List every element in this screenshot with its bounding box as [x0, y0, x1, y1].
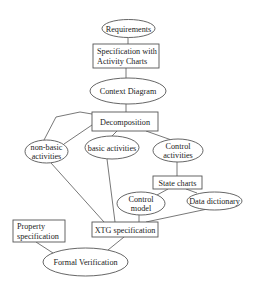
node-formal-verification: Formal Verification [43, 248, 128, 276]
decomposition-label: Decomposition [100, 118, 150, 127]
control-model-label: model [131, 204, 152, 213]
formal-verification-label: Formal Verification [53, 258, 117, 267]
node-control-activities: Controlactivities [153, 139, 203, 162]
control-activities-label: activities [163, 151, 193, 160]
non-basic-activities-label: non-basic [31, 143, 63, 152]
data-dictionary-label: Data dictionary [189, 197, 241, 206]
node-context-diagram: Context Diagram [90, 78, 166, 104]
spec-activity-charts-label: Specification with [97, 47, 157, 56]
node-xtg-specification: XTG specification [92, 222, 158, 237]
non-basic-activities-label: activities [32, 152, 62, 161]
node-spec-activity-charts: Specification withActivity Charts [93, 44, 159, 68]
control-model-label: Control [128, 195, 154, 204]
node-state-charts: State charts [153, 176, 202, 189]
context-diagram-label: Context Diagram [100, 87, 157, 96]
property-specification-label: specification [17, 232, 59, 241]
node-data-dictionary: Data dictionary [187, 192, 242, 210]
diagram-canvas: RequirementsSpecification withActivity C… [0, 0, 254, 293]
node-requirements: Requirements [102, 20, 155, 38]
node-basic-activities: basic activities [85, 136, 139, 159]
requirements-label: Requirements [106, 25, 151, 34]
basic-activities-label: basic activities [88, 144, 136, 153]
node-property-specification: Propertyspecification [13, 220, 65, 242]
node-control-model: Controlmodel [117, 192, 165, 215]
node-decomposition: Decomposition [92, 112, 158, 131]
xtg-specification-label: XTG specification [95, 226, 156, 235]
node-non-basic-activities: non-basicactivities [25, 140, 68, 163]
state-charts-label: State charts [159, 179, 197, 188]
spec-activity-charts-label: Activity Charts [97, 57, 147, 66]
property-specification-label: Property [17, 222, 46, 231]
control-activities-label: Control [165, 142, 191, 151]
